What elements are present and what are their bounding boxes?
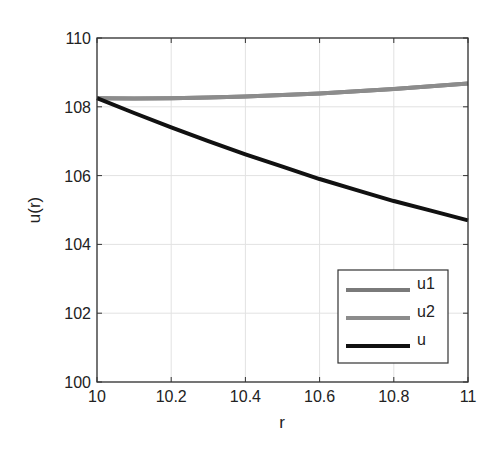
legend-label: u2 [417, 303, 435, 320]
y-tick-label: 104 [64, 236, 91, 253]
y-tick-label: 108 [64, 99, 91, 116]
x-tick-label: 11 [460, 388, 477, 405]
legend-label: u [417, 331, 426, 348]
series-u2 [97, 83, 468, 98]
x-tick-label: 10.4 [230, 388, 261, 405]
y-tick-label: 102 [64, 305, 91, 322]
legend-label: u1 [417, 275, 435, 292]
y-tick-label: 106 [64, 168, 91, 185]
line-chart: 1010.210.410.610.811100102104106108110 r… [0, 0, 503, 453]
x-axis-label: r [279, 413, 285, 432]
y-tick-label: 100 [64, 374, 91, 391]
legend: u1u2u [338, 270, 448, 363]
y-axis-label: u(r) [25, 197, 44, 223]
x-tick-label: 10.2 [156, 388, 187, 405]
x-tick-label: 10.6 [304, 388, 335, 405]
series-u [97, 98, 468, 220]
y-tick-label: 110 [65, 30, 91, 47]
data-series [97, 83, 468, 220]
x-tick-label: 10.8 [378, 388, 409, 405]
